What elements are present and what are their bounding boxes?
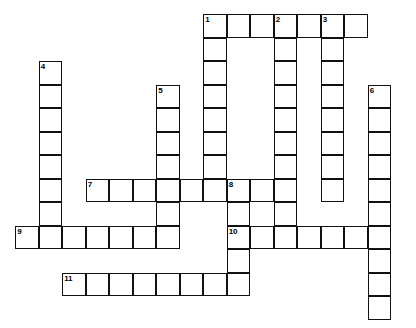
clue-number-8: 8	[229, 181, 233, 189]
clue-number-7: 7	[88, 181, 92, 189]
clue-number-9: 9	[17, 228, 21, 236]
clue-number-11: 11	[64, 275, 72, 283]
clue-number-5: 5	[158, 87, 162, 95]
clue-number-6: 6	[370, 87, 374, 95]
clue-number-1: 1	[205, 16, 209, 24]
crossword-puzzle: 1234567891011	[0, 0, 416, 328]
clue-number-4: 4	[41, 63, 45, 71]
clue-number-layer: 1234567891011	[0, 0, 416, 328]
clue-number-10: 10	[229, 228, 238, 236]
clue-number-2: 2	[276, 16, 280, 24]
clue-number-3: 3	[323, 16, 327, 24]
